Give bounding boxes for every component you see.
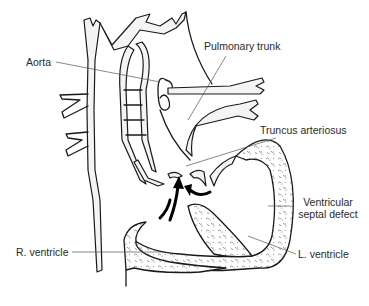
label-pulmonary-trunk: Pulmonary trunk bbox=[204, 40, 280, 52]
pulmonary-trunk bbox=[160, 12, 264, 160]
label-l-ventricle: L. ventricle bbox=[298, 248, 349, 260]
heart-diagram bbox=[0, 0, 369, 306]
label-vsd-line1: Ventricular bbox=[290, 196, 366, 208]
vena-cava bbox=[84, 18, 102, 272]
label-aorta: Aorta bbox=[26, 56, 51, 68]
label-r-ventricle: R. ventricle bbox=[16, 246, 69, 258]
label-ventricular-septal-defect: Ventricular septal defect bbox=[290, 196, 366, 220]
ventricular-septum bbox=[188, 204, 252, 256]
left-branch-vessels bbox=[60, 94, 88, 156]
label-truncus-arteriosus: Truncus arteriosus bbox=[260, 124, 347, 136]
label-vsd-line2: septal defect bbox=[290, 208, 366, 220]
